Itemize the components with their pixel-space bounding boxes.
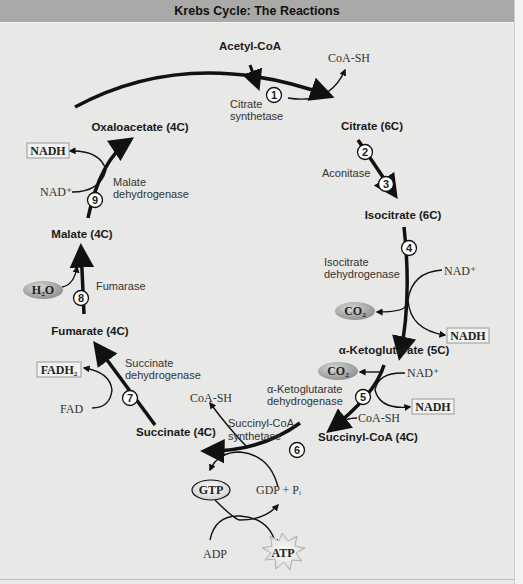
adp: ADP xyxy=(203,547,227,561)
svg-text:ATP: ATP xyxy=(271,546,294,560)
enzyme-6-line2: synthetase xyxy=(228,430,281,442)
label-fumarate: Fumarate (4C) xyxy=(51,325,128,337)
step-9-badge: 9 xyxy=(88,193,103,208)
enzyme-8-line1: Fumarase xyxy=(96,280,146,292)
co2-step5-bubble: CO₂ xyxy=(318,362,358,380)
h2o-bubble: H₂O xyxy=(23,281,63,299)
enzyme-1-line1: Citrate xyxy=(230,98,262,110)
nad-step5: NAD⁺ xyxy=(407,366,439,380)
enzyme-7-line1: Succinate xyxy=(125,357,173,369)
enzyme-5-line1: α-Ketoglutarate xyxy=(267,383,342,395)
nad-step9: NAD⁺ xyxy=(40,185,72,199)
step-8-badge: 8 xyxy=(74,291,89,306)
svg-text:4: 4 xyxy=(406,242,413,254)
atp-starburst: ATP xyxy=(262,533,305,570)
coa-sh-step6: CoA-SH xyxy=(190,391,232,405)
step-7-badge: 7 xyxy=(123,391,138,406)
step-3-badge: 3 xyxy=(379,177,394,192)
label-oxaloacetate: Oxaloacetate (4C) xyxy=(91,121,188,133)
label-citrate: Citrate (6C) xyxy=(341,120,403,132)
fadh2-box: FADH₂ xyxy=(37,362,81,377)
fad: FAD xyxy=(60,402,83,416)
gdp-pi: GDP + Pᵢ xyxy=(256,483,301,497)
enzyme-7-line2: dehydrogenase xyxy=(125,369,201,381)
step-1-arrow xyxy=(75,65,345,107)
svg-text:FADH₂: FADH₂ xyxy=(41,363,78,377)
label-succinyl-coa: Succinyl-CoA (4C) xyxy=(318,431,418,443)
step-2-badge: 2 xyxy=(358,145,373,160)
enzyme-6-line1: Succinyl-CoA xyxy=(228,417,295,429)
svg-text:H₂O: H₂O xyxy=(32,283,54,297)
enzyme-2-line1: Aconitase xyxy=(322,167,370,179)
step-4-badge: 4 xyxy=(402,241,417,256)
svg-text:1: 1 xyxy=(271,89,277,101)
svg-text:8: 8 xyxy=(78,292,84,304)
step-1-badge: 1 xyxy=(267,88,282,103)
label-acetyl-coa: Acetyl-CoA xyxy=(219,40,281,52)
svg-text:NADH: NADH xyxy=(30,144,66,158)
svg-text:3: 3 xyxy=(383,178,389,190)
nadh-step4-box: NADH xyxy=(447,328,489,343)
svg-text:GTP: GTP xyxy=(199,483,224,497)
svg-text:7: 7 xyxy=(127,392,133,404)
svg-text:6: 6 xyxy=(294,444,300,456)
enzyme-9-line1: Malate xyxy=(113,176,146,188)
svg-text:CO₂: CO₂ xyxy=(327,364,349,378)
enzyme-9-line2: dehydrogenase xyxy=(113,188,189,200)
gtp-bubble: GTP xyxy=(192,480,230,500)
svg-text:CO₂: CO₂ xyxy=(344,304,366,318)
nadh-step9-box: NADH xyxy=(27,143,69,158)
svg-text:NADH: NADH xyxy=(450,329,486,343)
svg-text:9: 9 xyxy=(92,194,98,206)
step-6-badge: 6 xyxy=(290,443,305,458)
svg-text:NADH: NADH xyxy=(415,400,451,414)
enzyme-4-line2: dehydrogenase xyxy=(324,268,400,280)
coa-sh-step5: CoA-SH xyxy=(358,411,400,425)
enzyme-5-line2: dehydrogenase xyxy=(267,395,343,407)
co2-step4-bubble: CO₂ xyxy=(335,302,375,320)
coa-sh-step1: CoA-SH xyxy=(328,51,370,65)
nadh-step5-box: NADH xyxy=(412,399,454,414)
label-isocitrate: Isocitrate (6C) xyxy=(365,209,442,221)
step-5-badge: 5 xyxy=(356,390,371,405)
label-succinate: Succinate (4C) xyxy=(136,426,216,438)
label-alpha-ketoglutarate: α-Ketoglutarate (5C) xyxy=(339,344,450,356)
svg-text:5: 5 xyxy=(360,391,366,403)
enzyme-1-line2: synthetase xyxy=(230,110,283,122)
nad-step4: NAD⁺ xyxy=(444,264,476,278)
label-malate: Malate (4C) xyxy=(51,228,113,240)
svg-text:2: 2 xyxy=(362,146,368,158)
enzyme-4-line1: Isocitrate xyxy=(324,256,369,268)
